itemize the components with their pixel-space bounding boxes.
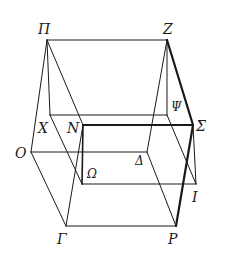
vertex-label-p: P (168, 232, 177, 246)
wireframe-diagram (0, 0, 225, 258)
edge-n-gamma (66, 125, 83, 226)
vertex-label-psi: Ψ (171, 101, 182, 113)
edge-o-gamma (31, 152, 66, 226)
edge-pi-n (47, 40, 83, 125)
vertex-label-z: Z (163, 22, 173, 36)
vertex-label-gamma: Γ (57, 232, 67, 246)
edge-n-omega (82, 125, 83, 184)
vertex-label-pi: Π (38, 22, 50, 36)
edge-delta-p (147, 152, 176, 226)
diagram-edges (31, 40, 196, 226)
edge-sigma-p (176, 125, 193, 226)
vertex-label-n: N (67, 121, 79, 135)
vertex-label-i: I (192, 190, 198, 204)
vertex-label-o: O (15, 146, 26, 160)
edge-pi-x (47, 40, 50, 115)
vertex-label-x: X (38, 121, 48, 135)
vertex-label-sigma: Σ (196, 119, 206, 133)
edge-z-delta (147, 40, 167, 152)
vertex-label-delta: Δ (135, 155, 144, 167)
vertex-label-omega: Ω (87, 168, 97, 180)
